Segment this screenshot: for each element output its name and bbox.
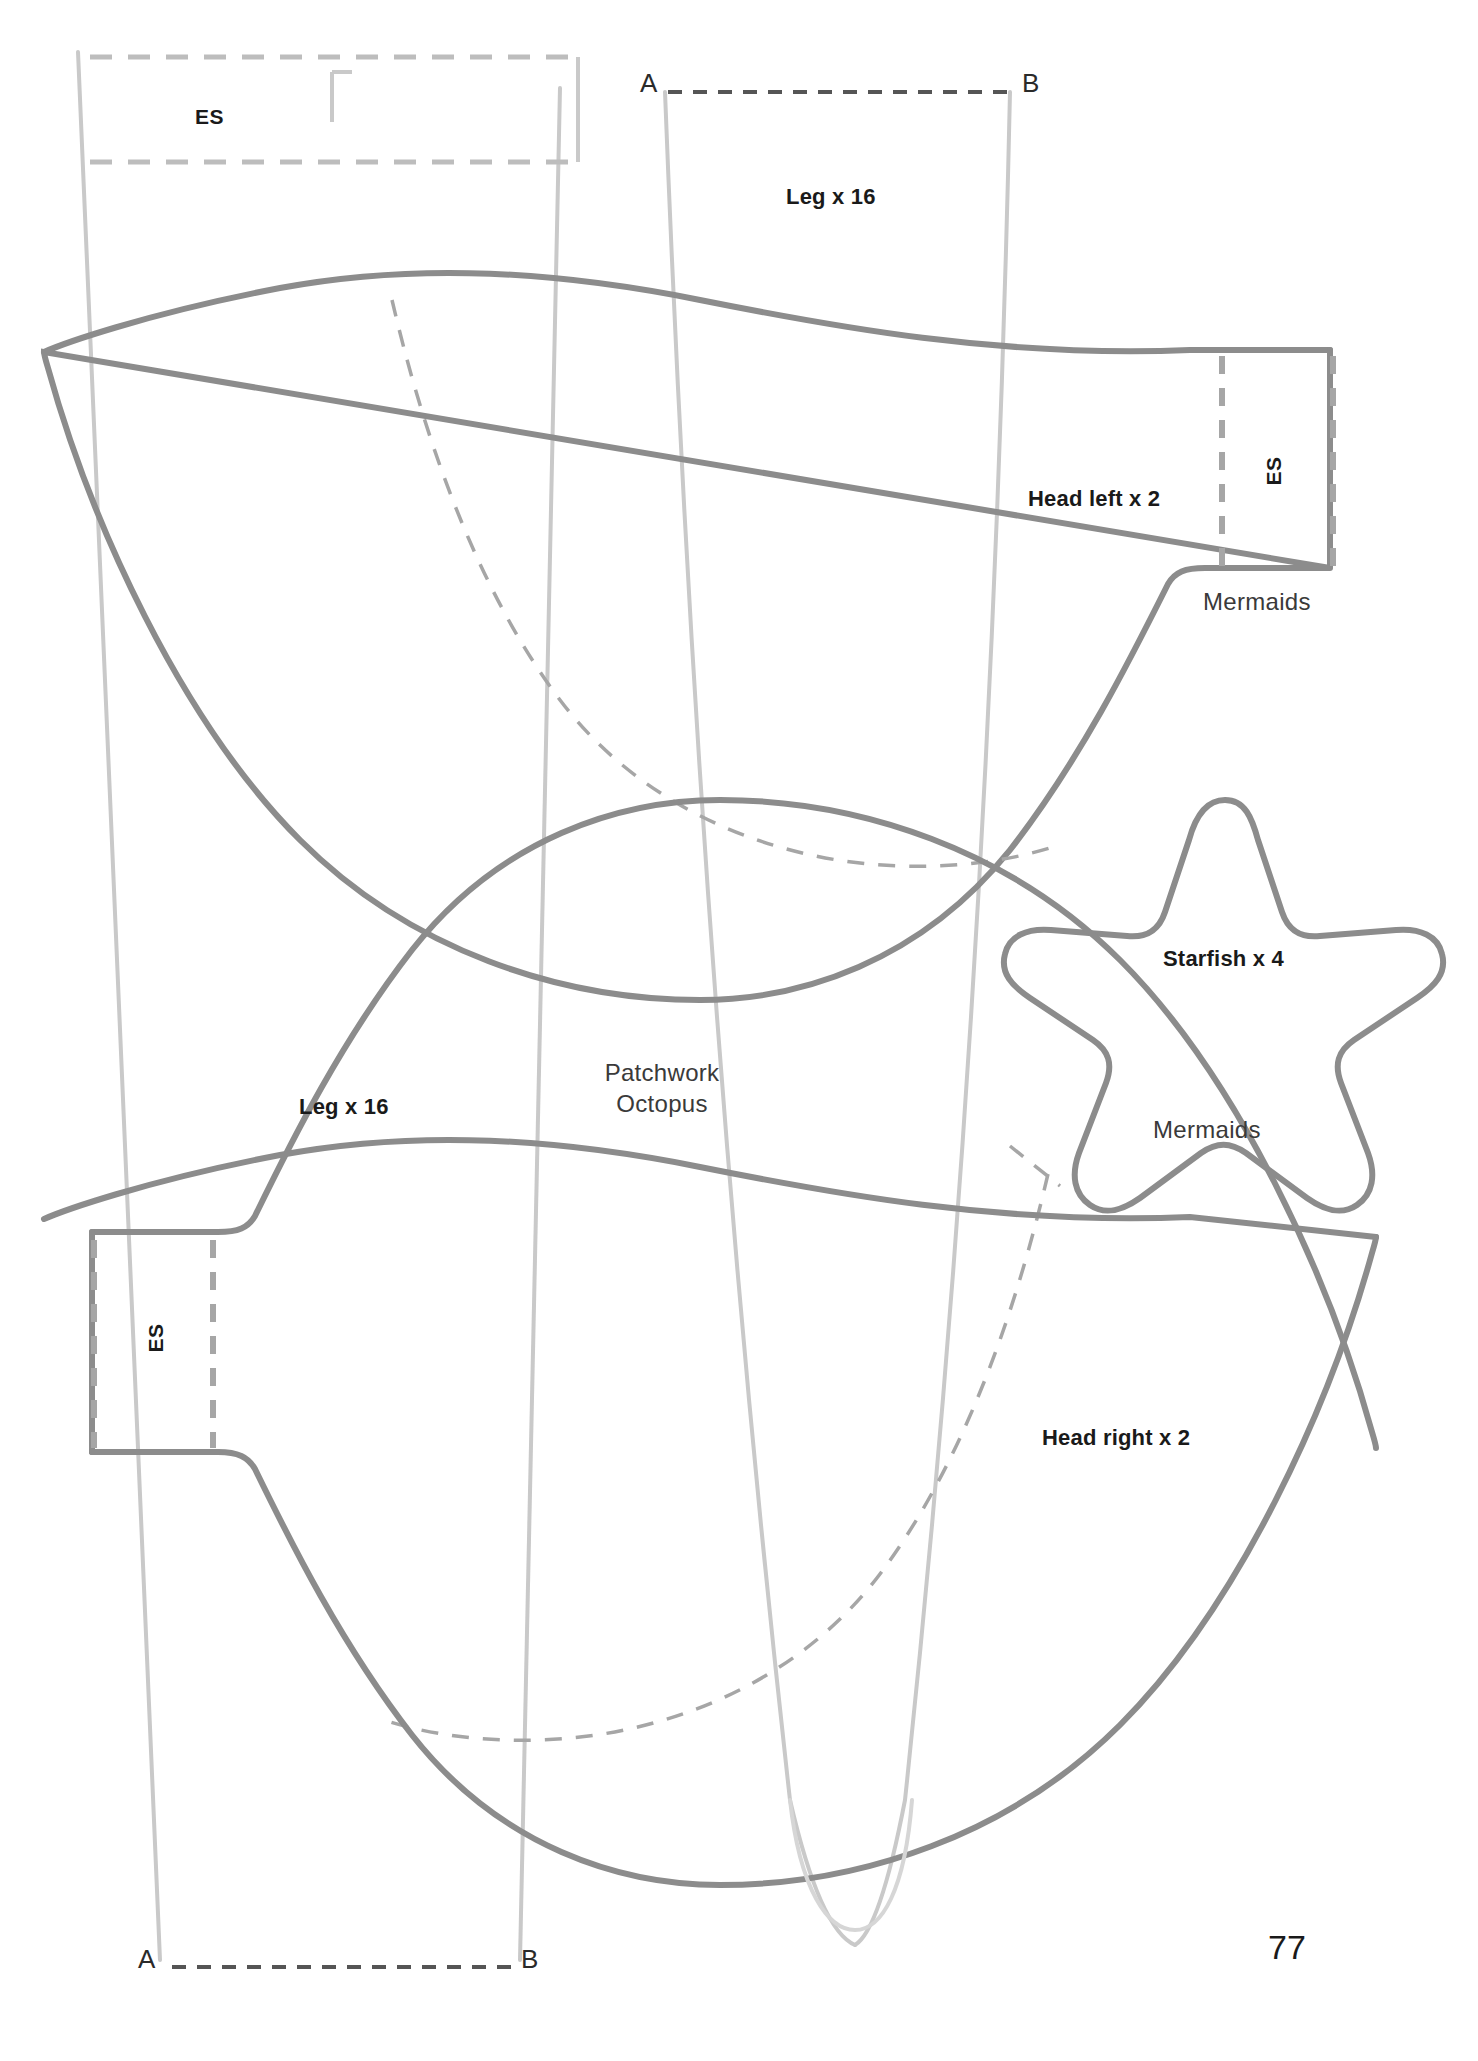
point-label-b-bottom: B	[521, 1946, 538, 1972]
head-left-piece	[44, 273, 1330, 1000]
pattern-title-line2: Octopus	[572, 1089, 752, 1120]
es-box-top-left	[90, 57, 578, 162]
head-right-piece	[92, 800, 1376, 1740]
point-label-b-top: B	[1022, 70, 1039, 96]
starfish-label: Starfish x 4	[1163, 948, 1284, 970]
leg-strip-left	[78, 52, 560, 1960]
point-label-a-top: A	[640, 70, 657, 96]
head-right-outline	[44, 1140, 1376, 1885]
pattern-title-line1: Patchwork	[572, 1058, 752, 1089]
mermaids-label-starfish: Mermaids	[1153, 1118, 1261, 1142]
head-left-label: Head left x 2	[1028, 488, 1160, 510]
head-right-label: Head right x 2	[1042, 1427, 1190, 1449]
pattern-sheet: ES A B Leg x 16 Head left x 2 ES Mermaid…	[0, 0, 1478, 2061]
pattern-title: Patchwork Octopus	[572, 1058, 752, 1119]
es-label-top-left: ES	[195, 106, 224, 127]
pattern-drawing	[0, 0, 1478, 2061]
leg-bottom-label: Leg x 16	[299, 1096, 389, 1118]
leg-top-label: Leg x 16	[786, 186, 876, 208]
mermaids-label-top: Mermaids	[1203, 590, 1311, 614]
leg-strip-right	[665, 92, 1010, 1945]
starfish-piece	[1004, 800, 1443, 1211]
page-number: 77	[1268, 1930, 1306, 1964]
es-label-bottom-left: ES	[145, 1313, 166, 1353]
es-label-right: ES	[1263, 446, 1284, 486]
point-label-a-bottom: A	[138, 1946, 155, 1972]
